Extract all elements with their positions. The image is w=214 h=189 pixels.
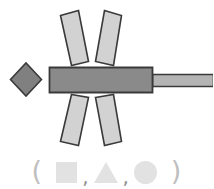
legend-separator-2: , <box>123 167 129 189</box>
legend-separator-1: , <box>82 167 88 189</box>
legend-row: ( , , ) <box>0 155 213 189</box>
figure-canvas: ( , , ) <box>0 0 213 189</box>
triangle-icon <box>94 162 118 183</box>
petal-top-right <box>96 11 122 66</box>
tail-bar <box>153 75 214 87</box>
legend-open-paren: ( <box>32 157 43 187</box>
petal-bottom-left <box>61 95 89 146</box>
square-icon <box>56 162 77 183</box>
main-body-bar <box>50 68 153 93</box>
petal-top-left <box>61 11 89 66</box>
circle-icon <box>134 161 157 184</box>
diamond-head-shape <box>11 63 42 96</box>
petal-bottom-right <box>96 95 122 146</box>
legend-close-paren: ) <box>171 157 182 187</box>
